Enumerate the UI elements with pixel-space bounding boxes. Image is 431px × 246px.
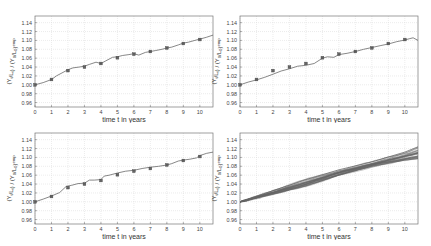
panel-bottom-left: 0123456789100.960.981.001.021.041.061.08…	[0, 117, 215, 240]
x-tick-label: 5	[321, 109, 324, 115]
y-tick-label: 1.14	[227, 20, 238, 26]
data-marker	[116, 173, 119, 176]
x-tick-label: 9	[182, 109, 185, 115]
x-axis-label: time t in years	[307, 233, 351, 240]
y-tick-label: 1.10	[22, 154, 33, 160]
x-tick-label: 0	[34, 109, 37, 115]
x-tick-label: 10	[197, 226, 203, 232]
data-marker	[272, 69, 275, 72]
x-tick-label: 3	[83, 109, 86, 115]
data-marker	[67, 186, 70, 189]
chart-svg: 0123456789100.960.981.001.021.041.061.08…	[205, 117, 420, 240]
x-tick-label: 3	[83, 226, 86, 232]
x-tick-label: 10	[402, 226, 408, 232]
x-tick-label: 2	[66, 226, 69, 232]
y-tick-label: 0.96	[227, 100, 238, 106]
x-tick-label: 2	[271, 226, 274, 232]
series-line	[35, 152, 213, 202]
y-tick-label: 1.02	[22, 190, 33, 196]
x-tick-label: 0	[239, 226, 242, 232]
x-tick-label: 5	[321, 226, 324, 232]
panel-bottom-right: 0123456789100.960.981.001.021.041.061.08…	[205, 117, 420, 240]
axes-frame	[35, 16, 213, 107]
x-tick-label: 8	[370, 226, 373, 232]
y-tick-label: 0.98	[227, 91, 238, 97]
x-tick-label: 10	[402, 109, 408, 115]
y-tick-label: 0.98	[22, 208, 33, 214]
chart-svg: 0123456789100.960.981.001.021.041.061.08…	[0, 0, 215, 123]
y-tick-label: 1.08	[22, 46, 33, 52]
y-tick-label: 1.04	[22, 181, 33, 187]
x-tick-label: 2	[66, 109, 69, 115]
y-tick-label: 1.10	[227, 154, 238, 160]
x-tick-label: 8	[165, 109, 168, 115]
y-tick-label: 1.12	[227, 29, 238, 35]
x-tick-label: 4	[99, 226, 102, 232]
y-tick-label: 1.04	[22, 64, 33, 70]
chart-svg: 0123456789100.960.981.001.021.041.061.08…	[205, 0, 420, 123]
axes-frame	[240, 16, 418, 107]
data-marker	[305, 62, 308, 65]
y-tick-label: 0.96	[22, 217, 33, 223]
x-tick-label: 5	[116, 226, 119, 232]
y-tick-label: 0.98	[227, 208, 238, 214]
y-axis-label: (Yt/Lt) / (Y0/L0)emp	[6, 38, 18, 85]
x-tick-label: 4	[304, 226, 307, 232]
x-tick-label: 7	[149, 109, 152, 115]
grid	[35, 16, 213, 107]
y-axis-label: (Yt/Lt) / (Y0/L0)emp	[6, 155, 18, 202]
y-tick-label: 1.12	[22, 146, 33, 152]
y-tick-label: 1.00	[227, 82, 238, 88]
x-tick-label: 4	[99, 109, 102, 115]
y-tick-label: 1.12	[227, 146, 238, 152]
x-tick-label: 10	[197, 109, 203, 115]
y-tick-label: 1.06	[227, 55, 238, 61]
y-tick-label: 1.00	[227, 199, 238, 205]
y-tick-label: 1.04	[227, 64, 238, 70]
panel-top-right: 0123456789100.960.981.001.021.041.061.08…	[205, 0, 420, 123]
y-axis-label: (Yt/Lt) / (Y0/L0)emp	[211, 155, 223, 202]
x-tick-label: 6	[337, 109, 340, 115]
x-tick-label: 6	[337, 226, 340, 232]
y-tick-label: 1.06	[22, 172, 33, 178]
y-tick-label: 1.00	[22, 82, 33, 88]
y-tick-label: 1.02	[22, 73, 33, 79]
x-tick-label: 5	[116, 109, 119, 115]
y-tick-label: 1.08	[22, 163, 33, 169]
x-tick-label: 8	[165, 226, 168, 232]
y-tick-label: 1.14	[22, 137, 33, 143]
y-tick-label: 1.12	[22, 29, 33, 35]
y-tick-label: 1.04	[227, 181, 238, 187]
panel-top-left: 0123456789100.960.981.001.021.041.061.08…	[0, 0, 215, 123]
x-tick-label: 9	[182, 226, 185, 232]
grid	[240, 16, 418, 107]
y-tick-label: 1.00	[22, 199, 33, 205]
y-tick-label: 1.10	[22, 37, 33, 43]
grid	[35, 133, 213, 224]
y-tick-label: 1.08	[227, 163, 238, 169]
x-tick-label: 0	[34, 226, 37, 232]
y-tick-label: 1.06	[227, 172, 238, 178]
x-tick-label: 1	[50, 109, 53, 115]
y-tick-label: 1.14	[227, 137, 238, 143]
x-tick-label: 0	[239, 109, 242, 115]
x-tick-label: 6	[132, 226, 135, 232]
x-tick-label: 7	[149, 226, 152, 232]
chart-svg: 0123456789100.960.981.001.021.041.061.08…	[0, 117, 215, 240]
series-line	[35, 35, 213, 85]
x-tick-label: 6	[132, 109, 135, 115]
y-tick-label: 1.02	[227, 73, 238, 79]
axes-frame	[35, 133, 213, 224]
y-tick-label: 1.08	[227, 46, 238, 52]
x-tick-label: 7	[354, 226, 357, 232]
y-axis-label: (Yt/Lt) / (Y0/L0)emp	[211, 38, 223, 85]
x-tick-label: 9	[387, 109, 390, 115]
x-tick-label: 3	[288, 109, 291, 115]
x-tick-label: 2	[271, 109, 274, 115]
x-axis-label: time t in years	[102, 233, 146, 240]
data-marker	[288, 66, 291, 69]
x-tick-label: 9	[387, 226, 390, 232]
y-tick-label: 1.10	[227, 37, 238, 43]
y-tick-label: 0.96	[22, 100, 33, 106]
x-tick-label: 1	[255, 226, 258, 232]
